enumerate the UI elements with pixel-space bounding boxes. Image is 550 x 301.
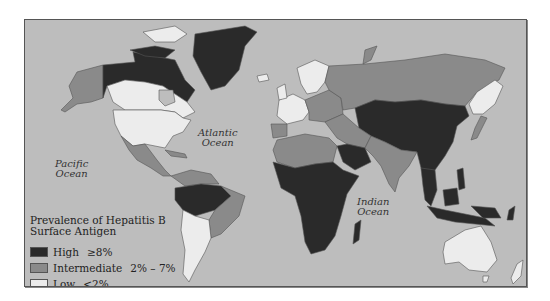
swatch-intermediate (30, 263, 48, 273)
region-caribbean (165, 150, 187, 158)
legend-range-intermediate: 2% – 7% (130, 262, 175, 274)
region-arctic-islands-north (143, 26, 187, 42)
region-japan (471, 116, 487, 140)
legend-item-high: High ≥8% (30, 245, 176, 259)
region-pacific-islands (507, 206, 515, 220)
atlantic-label-line2: Ocean (198, 138, 237, 148)
swatch-high (30, 247, 48, 257)
legend-title-line2: Surface Antigen (30, 226, 176, 237)
legend-label-high: High (53, 246, 79, 258)
atlantic-ocean-label: Atlantic Ocean (198, 128, 237, 148)
legend-range-low: <2% (83, 278, 108, 287)
indian-label-line2: Ocean (357, 207, 389, 217)
world-map: Pacific Ocean Atlantic Ocean Indian Ocea… (24, 19, 527, 287)
region-australia (443, 226, 497, 272)
indian-ocean-label: Indian Ocean (357, 197, 389, 217)
region-novaya-zemlya (363, 46, 377, 64)
region-philippines (457, 168, 465, 190)
region-southeast-asia (421, 168, 437, 206)
region-greenland (193, 26, 257, 90)
legend-item-intermediate: Intermediate 2% – 7% (30, 261, 176, 275)
region-sub-saharan-africa (273, 162, 359, 254)
legend-item-low: Low <2% (30, 277, 176, 287)
pacific-label-line2: Ocean (55, 169, 88, 179)
region-iceland (257, 74, 269, 82)
pacific-ocean-label: Pacific Ocean (55, 159, 88, 179)
region-borneo (443, 188, 459, 206)
region-madagascar (353, 220, 361, 244)
swatch-low (30, 279, 48, 287)
region-iberia (271, 124, 287, 138)
legend-label-intermediate: Intermediate (53, 262, 122, 274)
region-new-zealand (511, 260, 523, 284)
region-south-america-north (171, 170, 219, 186)
legend-range-high: ≥8% (87, 246, 112, 258)
region-uk (277, 84, 287, 100)
region-alaska (61, 65, 103, 112)
region-southern-south-america (181, 210, 211, 282)
region-scandinavia (297, 60, 329, 94)
legend: Prevalence of Hepatitis B Surface Antige… (30, 215, 176, 287)
legend-label-low: Low (53, 278, 75, 287)
region-tasmania (483, 276, 489, 282)
